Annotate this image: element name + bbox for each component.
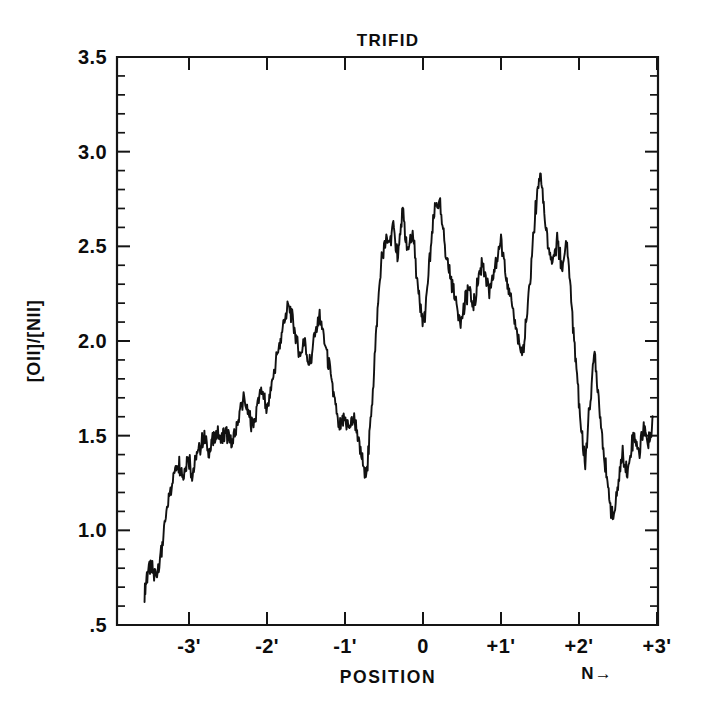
x-tick-label: -2' bbox=[255, 635, 279, 657]
y-tick-label: 2.0 bbox=[78, 330, 107, 352]
y-tick-label: .5 bbox=[90, 614, 107, 636]
chart-canvas: TRIFID .51.01.52.02.53.03.5 -3'-2'-1'0+1… bbox=[0, 0, 704, 709]
north-arrow-annotation: N→ bbox=[581, 664, 612, 683]
y-tick-label: 3.0 bbox=[78, 141, 107, 163]
y-tick-label: 1.5 bbox=[78, 425, 107, 447]
y-tick-labels: .51.01.52.02.53.03.5 bbox=[78, 46, 107, 636]
y-tick-label: 2.5 bbox=[78, 235, 107, 257]
y-tick-label: 3.5 bbox=[78, 46, 107, 68]
data-curve-oii-nii bbox=[145, 173, 654, 602]
x-tick-label: +1' bbox=[487, 635, 516, 657]
x-tick-labels: -3'-2'-1'0+1'+2'+3' bbox=[177, 635, 671, 657]
x-tick-label: +3' bbox=[643, 635, 672, 657]
x-tick-label: +2' bbox=[565, 635, 594, 657]
x-tick-label: 0 bbox=[417, 635, 429, 657]
y-axis-title: [OII]/[NII] bbox=[24, 300, 44, 383]
y-tick-label: 1.0 bbox=[78, 519, 107, 541]
axis-ticks bbox=[117, 57, 658, 625]
x-tick-label: -1' bbox=[333, 635, 357, 657]
chart-title: TRIFID bbox=[357, 31, 420, 50]
y-axis-title-group: [OII]/[NII] bbox=[24, 300, 44, 383]
x-axis-title: POSITION bbox=[340, 667, 436, 687]
figure-container: TRIFID .51.01.52.02.53.03.5 -3'-2'-1'0+1… bbox=[0, 0, 704, 709]
x-tick-label: -3' bbox=[177, 635, 201, 657]
plot-frame bbox=[117, 57, 658, 625]
